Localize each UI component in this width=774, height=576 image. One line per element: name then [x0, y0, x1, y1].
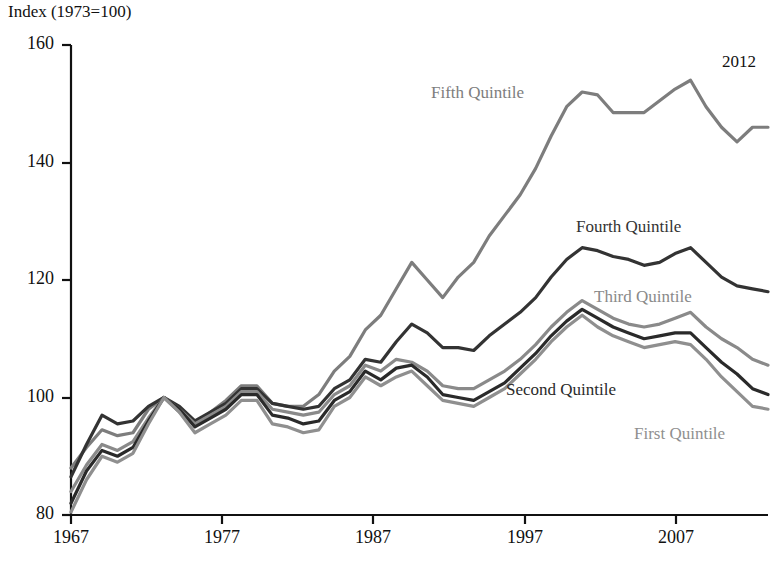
- x-tick-label: 2007: [641, 527, 711, 548]
- x-tick-label: 1997: [490, 527, 560, 548]
- series-label-second-quintile: Second Quintile: [506, 380, 616, 400]
- line-chart: Index (1973=100) 2012 160140120100801967…: [0, 0, 774, 576]
- series-label-fourth-quintile: Fourth Quintile: [576, 217, 681, 237]
- series-line-first-quintile: [71, 315, 768, 512]
- y-tick-label: 80: [2, 503, 54, 524]
- x-tick-label: 1967: [36, 527, 106, 548]
- y-tick-label: 140: [2, 151, 54, 172]
- x-tick-label: 1977: [187, 527, 257, 548]
- series-label-third-quintile: Third Quintile: [594, 287, 692, 307]
- y-tick-label: 160: [2, 33, 54, 54]
- y-tick-label: 100: [2, 386, 54, 407]
- x-tick-label: 1987: [338, 527, 408, 548]
- series-label-first-quintile: First Quintile: [634, 424, 725, 444]
- series-label-fifth-quintile: Fifth Quintile: [431, 83, 524, 103]
- y-tick-label: 120: [2, 268, 54, 289]
- axis-lines: [62, 45, 768, 524]
